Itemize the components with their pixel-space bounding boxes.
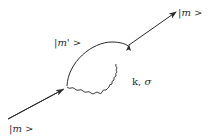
outgoing-line (129, 12, 176, 45)
ket-bracket: > (191, 7, 203, 18)
ket-bracket: > (22, 123, 34, 134)
incoming-line (8, 89, 64, 119)
incoming-state-label: |m > (9, 124, 33, 134)
state-symbol: m (181, 7, 190, 18)
intermediate-propagator (67, 42, 128, 86)
diagram-canvas (0, 0, 212, 140)
intermediate-state-label: |m' > (54, 38, 81, 48)
photon-polarization: σ (144, 76, 151, 87)
ket-bracket: > (70, 37, 82, 48)
state-symbol: m (12, 123, 21, 134)
state-symbol: m' (57, 37, 69, 48)
photon-label: k, σ (132, 77, 151, 87)
outgoing-state-label: |m > (178, 8, 202, 18)
feynman-diagram: |m > |m' > |m > k, σ (0, 0, 212, 140)
photon-propagator (67, 64, 117, 94)
